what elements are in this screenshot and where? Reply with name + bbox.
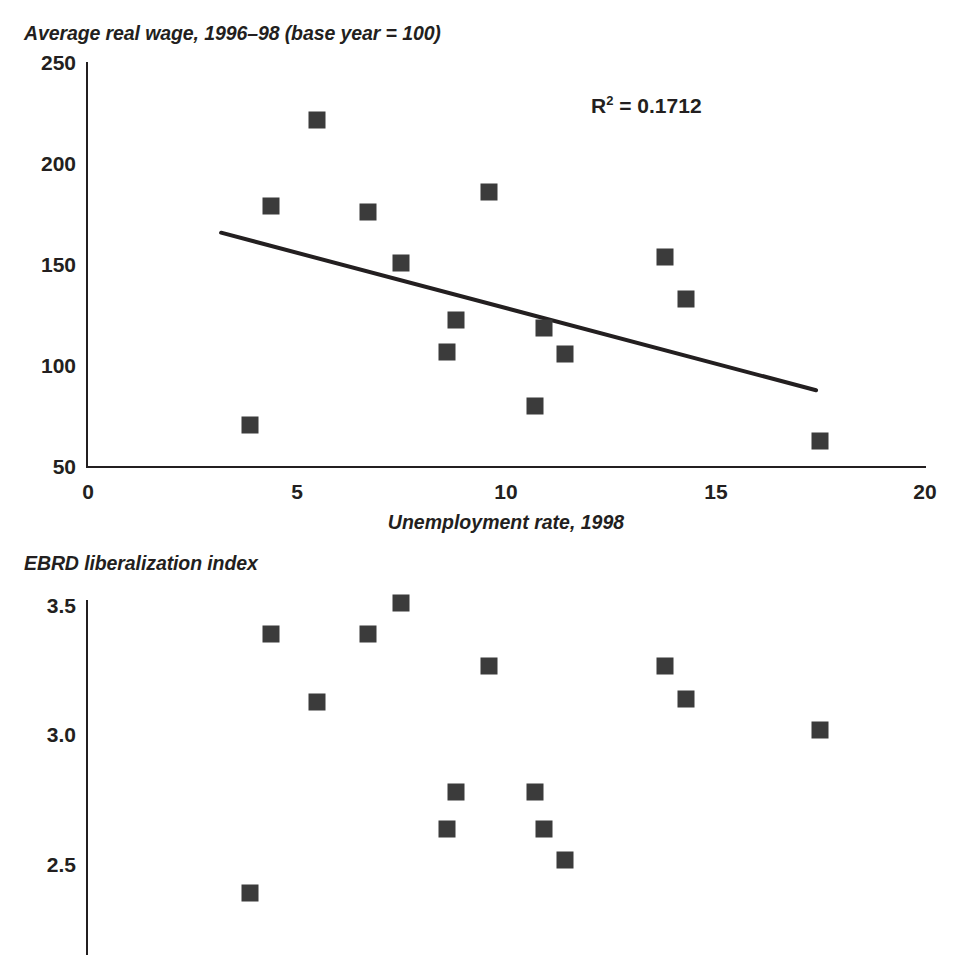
data-point-marker: [535, 820, 552, 837]
bottom-chart-panel: EBRD liberalization index 3.5 3.0 2.5: [0, 540, 969, 955]
data-point-marker: [535, 319, 552, 336]
data-point-marker: [439, 343, 456, 360]
top-chart-panel: Average real wage, 1996–98 (base year = …: [0, 0, 969, 540]
data-point-marker: [263, 198, 280, 215]
data-point-marker: [359, 204, 376, 221]
data-point-marker: [359, 626, 376, 643]
bottom-chart-y-axis: [86, 600, 88, 955]
data-point-marker: [678, 691, 695, 708]
data-point-marker: [481, 657, 498, 674]
data-point-marker: [657, 248, 674, 265]
data-point-marker: [812, 722, 829, 739]
data-point-marker: [242, 416, 259, 433]
data-point-marker: [556, 851, 573, 868]
data-point-marker: [812, 432, 829, 449]
data-point-marker: [527, 398, 544, 415]
data-point-marker: [393, 254, 410, 271]
data-point-marker: [527, 784, 544, 801]
data-point-marker: [309, 111, 326, 128]
data-point-marker: [657, 657, 674, 674]
bottom-y-tick-3-5: 3.5: [14, 594, 76, 618]
data-point-marker: [556, 345, 573, 362]
data-point-marker: [263, 626, 280, 643]
figure-container: Average real wage, 1996–98 (base year = …: [0, 0, 969, 955]
data-point-marker: [393, 595, 410, 612]
data-point-marker: [439, 820, 456, 837]
bottom-y-tick-3-0: 3.0: [14, 723, 76, 747]
data-point-marker: [447, 784, 464, 801]
bottom-chart-title: EBRD liberalization index: [24, 552, 258, 575]
data-point-marker: [242, 885, 259, 902]
top-chart-trendline: [0, 0, 969, 540]
data-point-marker: [678, 291, 695, 308]
data-point-marker: [309, 693, 326, 710]
data-point-marker: [481, 184, 498, 201]
bottom-y-tick-2-5: 2.5: [14, 853, 76, 877]
data-point-marker: [447, 311, 464, 328]
